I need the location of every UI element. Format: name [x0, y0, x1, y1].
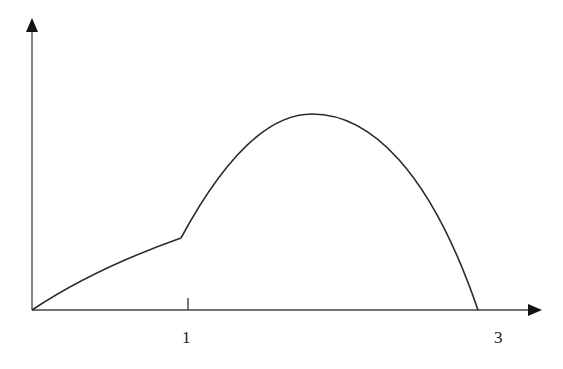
curve-segment-1 — [32, 238, 181, 310]
y-axis-arrow-icon — [26, 18, 38, 32]
curve-segment-2 — [181, 114, 478, 310]
chart — [0, 0, 563, 369]
x-axis-arrow-icon — [528, 304, 542, 316]
x-tick-label-3: 3 — [494, 328, 503, 348]
x-tick-label-1: 1 — [182, 328, 191, 348]
